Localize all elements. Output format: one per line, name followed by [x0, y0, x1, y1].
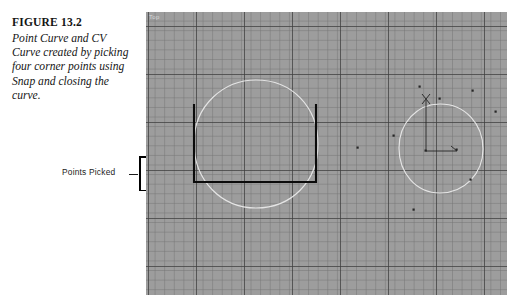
cv-point	[472, 90, 474, 92]
cv-curve-group	[357, 86, 497, 211]
picked-points-polyline	[194, 104, 316, 182]
cv-point	[393, 135, 395, 137]
point-curve-group	[194, 80, 318, 208]
cv-point	[357, 147, 359, 149]
cv-point	[413, 209, 415, 211]
cv-point	[495, 111, 497, 113]
cv-point	[419, 86, 421, 88]
callout-label-points-picked: Points Picked	[62, 167, 115, 177]
figure-page: FIGURE 13.2 Point Curve and CV Curve cre…	[0, 0, 525, 305]
cv-point	[439, 98, 441, 100]
viewport-geometry	[146, 12, 507, 295]
point-curve-closed	[194, 80, 318, 208]
modeling-viewport[interactable]: Top	[146, 12, 507, 295]
figure-caption-text: Point Curve and CV Curve created by pick…	[12, 32, 130, 103]
callout-leader-dash	[129, 174, 138, 175]
figure-number-label: FIGURE 13.2	[12, 16, 132, 29]
cv-point	[470, 179, 472, 181]
callout-bracket-spine	[139, 156, 141, 191]
figure-caption-block: FIGURE 13.2 Point Curve and CV Curve cre…	[12, 16, 132, 103]
